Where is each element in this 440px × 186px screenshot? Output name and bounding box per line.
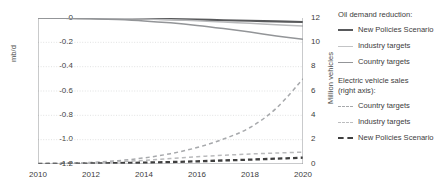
legend-item-oil-industry-targets[interactable]: Industry targets (338, 41, 440, 51)
y-tick-right-1: 10 (311, 38, 320, 46)
y-tick-right-2: 8 (311, 62, 315, 70)
plot-svg (38, 18, 303, 164)
legend-label: Country targets (358, 101, 410, 111)
legend-swatch-dashed-light (338, 122, 353, 123)
legend-title-ev-line1: Electric vehicle sales (338, 76, 408, 85)
legend-item-ev-country-targets[interactable]: Country targets (338, 101, 440, 111)
legend-title-oil-demand: Oil demand reduction: (338, 10, 440, 20)
x-tick-2010: 2010 (29, 171, 47, 179)
legend-swatch-dashed-dark (338, 137, 353, 139)
y-tick-right-3: 6 (311, 87, 315, 95)
legend-label: Industry targets (358, 117, 410, 127)
gridlines (38, 42, 303, 139)
y-tick-right-4: 4 (311, 111, 315, 119)
legend-swatch-solid-mid (338, 62, 353, 63)
legend-title-ev-sales: Electric vehicle sales (right axis): (338, 76, 440, 96)
legend-item-oil-new-policies[interactable]: New Policies Scenario (338, 25, 440, 35)
legend-label: Country targets (358, 57, 410, 67)
legend-swatch-dashed-mid (338, 106, 353, 107)
legend-title-ev-line2: (right axis): (338, 86, 440, 96)
x-tick-2012: 2012 (82, 171, 100, 179)
legend-label: Industry targets (358, 41, 410, 51)
series-line-3 (38, 79, 303, 164)
legend-item-ev-industry-targets[interactable]: Industry targets (338, 117, 440, 127)
y-tick-right-0: 12 (311, 14, 320, 22)
x-tick-2018: 2018 (241, 171, 259, 179)
legend-item-oil-country-targets[interactable]: Country targets (338, 57, 440, 67)
x-tick-2016: 2016 (188, 171, 206, 179)
chart-figure: mb/d Million vehicles 0 -0.2 -0.4 -0.6 -… (0, 0, 440, 186)
legend-label: New Policies Scenario (358, 133, 434, 143)
legend-swatch-solid-dark (338, 29, 353, 31)
plot-area (38, 18, 303, 164)
legend-label: New Policies Scenario (358, 25, 434, 35)
legend-swatch-solid-light (338, 46, 353, 47)
legend-item-ev-new-policies[interactable]: New Policies Scenario (338, 133, 440, 143)
x-tick-2020: 2020 (294, 171, 312, 179)
y-axis-title-left: mb/d (9, 45, 18, 62)
y-tick-right-5: 2 (311, 135, 315, 143)
x-tick-2014: 2014 (135, 171, 153, 179)
legend: Oil demand reduction: New Policies Scena… (338, 10, 440, 149)
y-axis-title-right: Million vehicles (326, 52, 335, 104)
y-tick-right-6: 0 (311, 160, 315, 168)
